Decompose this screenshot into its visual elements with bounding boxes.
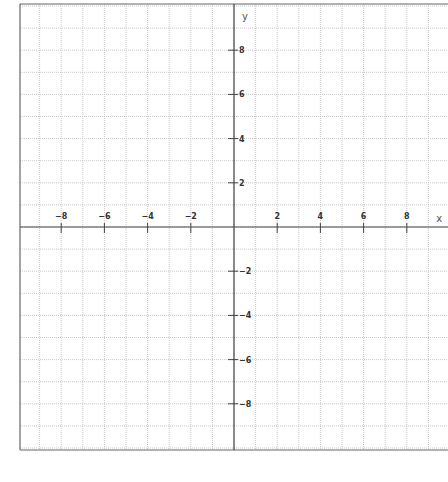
y-tick-label: 8 bbox=[239, 46, 245, 55]
y-tick-label: −2 bbox=[239, 267, 251, 276]
x-tick-label: 2 bbox=[274, 212, 280, 221]
y-tick-label: −8 bbox=[239, 400, 252, 409]
x-tick-label: −6 bbox=[98, 212, 111, 221]
x-axis-label: x bbox=[436, 213, 442, 224]
x-tick-label: 6 bbox=[361, 212, 367, 221]
y-axis-label: y bbox=[242, 11, 248, 22]
coordinate-plane: −8−6−4−224688642−2−4−6−8yx bbox=[0, 0, 448, 482]
tick-labels: −8−6−4−224688642−2−4−6−8yx bbox=[55, 11, 442, 409]
y-tick-label: 4 bbox=[239, 135, 245, 144]
axes bbox=[20, 4, 448, 450]
x-tick-label: −4 bbox=[141, 212, 154, 221]
x-tick-label: 8 bbox=[404, 212, 410, 221]
x-tick-label: −8 bbox=[55, 212, 68, 221]
y-tick-label: −4 bbox=[239, 311, 252, 320]
y-tick-label: 2 bbox=[239, 179, 245, 188]
x-tick-label: −2 bbox=[185, 212, 197, 221]
x-tick-label: 4 bbox=[318, 212, 324, 221]
y-tick-label: 6 bbox=[239, 90, 245, 99]
y-tick-label: −6 bbox=[239, 356, 252, 365]
